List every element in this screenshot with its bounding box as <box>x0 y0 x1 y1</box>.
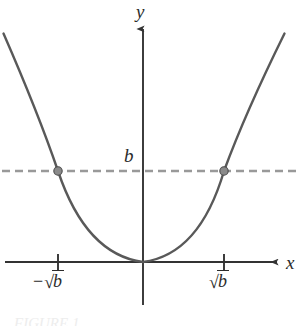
x-tick-label-neg-sqrt-b: −√b <box>33 272 64 290</box>
x-tick-label-pos-sqrt-b: √b <box>209 272 229 290</box>
left-intersection-point <box>54 167 62 175</box>
radical-pos-sqrt-b: √b <box>209 272 229 290</box>
minus-sign-glyph: − <box>33 271 43 291</box>
right-intersection-point <box>220 167 228 175</box>
parabola-curve <box>4 34 285 263</box>
y-axis-label: y <box>136 2 144 21</box>
radicand-value: b <box>52 270 64 291</box>
caption-fragment: FIGURE 1 <box>14 316 154 326</box>
x-axis-label: x <box>286 253 294 272</box>
radicand-value: b <box>217 270 229 291</box>
parabola-figure: y x b −√b √b FIGURE 1 <box>0 0 300 326</box>
radical-neg-sqrt-b: √b <box>44 272 64 290</box>
level-line-label-b: b <box>124 146 134 165</box>
